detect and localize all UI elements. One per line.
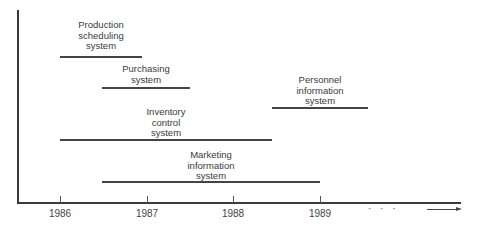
tick-1988 [233,196,234,203]
bar-purchasing [102,87,190,89]
system-timeline-chart: 1986 1987 1988 1989 · · · Production sch… [0,0,481,227]
bar-inventory-control [60,139,272,141]
tick-label-1988: 1988 [213,208,253,219]
bar-marketing-information [102,181,320,183]
bar-production-scheduling [60,56,142,58]
tick-label-1987: 1987 [127,208,167,219]
tick-1987 [147,196,148,203]
bar-label-purchasing: Purchasing system [102,64,190,85]
tick-label-1989: 1989 [300,208,340,219]
bar-label-inventory-control: Inventory control system [60,107,272,139]
axis-continuation-ellipsis: · · · [368,203,399,214]
bar-personnel-information [272,107,368,109]
tick-1989 [320,196,321,203]
bar-label-personnel-information: Personnel information system [272,75,368,107]
bar-label-production-scheduling: Production scheduling system [60,20,142,52]
bar-label-marketing-information: Marketing information system [102,150,320,182]
arrow-right-icon [427,209,457,210]
tick-label-1986: 1986 [40,208,80,219]
y-axis [17,10,19,204]
tick-1986 [60,196,61,203]
